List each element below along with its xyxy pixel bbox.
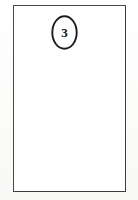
- callout-marker-3[interactable]: 3: [51, 15, 78, 50]
- figure-root: 3: [0, 0, 138, 200]
- callout-number-label: 3: [51, 15, 78, 50]
